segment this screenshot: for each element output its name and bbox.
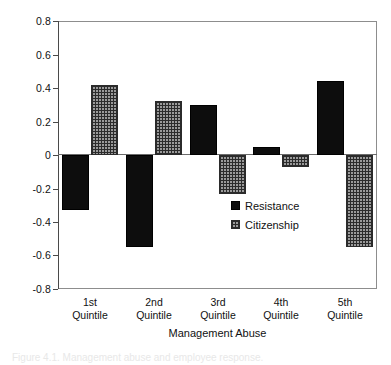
legend-swatch-resistance-icon [231,201,240,210]
x-axis-label-3: 3rdQuintile [186,296,250,322]
plot-frame [58,21,377,289]
y-axis-tick [53,222,58,223]
x-axis-label-4: 4thQuintile [249,296,313,322]
y-axis-tick-label: 0.2 [3,117,51,127]
chart-legend: Resistance Citizenship [231,196,343,234]
y-axis-tick-label-wrap: 0.6 [0,50,51,60]
x-axis-label-line2: Quintile [249,309,313,322]
x-axis-label-2: 2ndQuintile [122,296,186,322]
x-axis-label-line1: 4th [274,296,289,308]
y-axis-tick-label: 0.8 [3,16,51,26]
y-axis-tick-label: -0.2 [3,184,51,194]
legend-label-resistance: Resistance [245,200,299,212]
figure-container: 0.80.60.40.20-0.2-0.4-0.6-0.8 1stQuintil… [0,0,391,365]
y-axis-tick [53,155,58,156]
bar-resistance-1 [62,155,89,210]
y-axis-tick-label: -0.6 [3,250,51,260]
bar-citizenship-2 [155,101,182,155]
y-axis-tick-label: -0.8 [3,284,51,294]
legend-label-citizenship: Citizenship [245,219,299,231]
bar-resistance-3 [190,105,217,155]
x-axis-label-line1: 1st [83,296,97,308]
x-axis-title: Management Abuse [58,327,377,339]
x-axis-label-line1: 2nd [145,296,163,308]
bar-citizenship-3 [219,155,246,194]
legend-item-resistance: Resistance [231,196,343,215]
bar-resistance-2 [126,155,153,247]
y-axis-tick [53,21,58,22]
x-axis-label-line1: 3rd [210,296,225,308]
y-axis-tick-label: -0.4 [3,217,51,227]
y-axis-tick [53,122,58,123]
bar-citizenship-5 [346,155,373,247]
legend-swatch-citizenship-icon [231,220,240,229]
y-axis-tick-label: 0 [3,150,51,160]
y-axis-tick-label-wrap: 0 [0,150,51,160]
x-axis-label-line2: Quintile [313,309,377,322]
bar-citizenship-1 [91,85,118,155]
x-axis-label-line2: Quintile [186,309,250,322]
y-axis-line [58,21,59,289]
y-axis-tick [53,255,58,256]
y-axis-tick-label: 0.4 [3,83,51,93]
x-axis-label-line2: Quintile [122,309,186,322]
x-axis-label-line2: Quintile [58,309,122,322]
y-axis-tick [53,88,58,89]
y-axis-tick [53,55,58,56]
x-axis-label-5: 5thQuintile [313,296,377,322]
y-axis-tick [53,289,58,290]
bar-citizenship-4 [282,155,309,167]
bar-resistance-4 [253,147,280,155]
y-axis-tick-label-wrap: -0.4 [0,217,51,227]
y-axis-tick-label-wrap: -0.8 [0,284,51,294]
figure-caption: Figure 4.1. Management abuse and employe… [12,352,352,363]
bar-resistance-5 [317,81,344,155]
y-axis-tick [53,189,58,190]
x-axis-label-line1: 5th [338,296,353,308]
y-axis-tick-label-wrap: 0.2 [0,117,51,127]
y-axis-tick-label-wrap: -0.6 [0,250,51,260]
y-axis-tick-label-wrap: 0.8 [0,16,51,26]
y-axis-tick-label-wrap: 0.4 [0,83,51,93]
y-axis-tick-label: 0.6 [3,50,51,60]
legend-item-citizenship: Citizenship [231,215,343,234]
x-axis-label-1: 1stQuintile [58,296,122,322]
y-axis-tick-label-wrap: -0.2 [0,184,51,194]
